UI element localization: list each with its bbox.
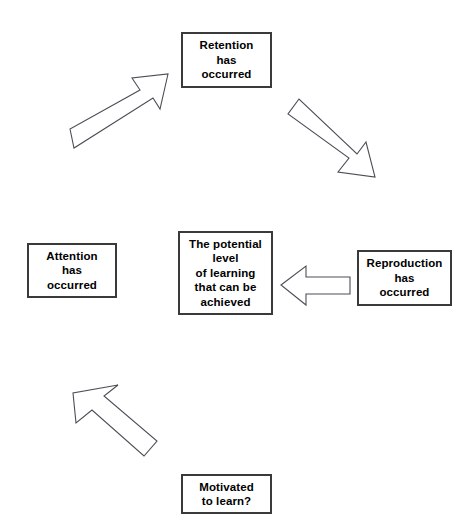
node-retention-line-3: occurred — [201, 67, 251, 82]
node-reproduction-line-3: occurred — [379, 285, 429, 300]
node-attention-line-2: has — [62, 263, 82, 278]
node-attention-has-occurred: Attention has occurred — [27, 243, 117, 298]
arrow-attention-to-retention — [70, 74, 168, 148]
arrow-motivated-to-attention — [73, 385, 157, 456]
node-motivated-to-learn: Motivated to learn? — [181, 474, 272, 514]
node-potential-level-of-learning: The potential level of learning that can… — [178, 231, 273, 315]
node-motivated-line-2: to learn? — [202, 494, 251, 509]
node-attention-line-3: occurred — [47, 278, 97, 293]
node-potential-line-5: achieved — [200, 295, 250, 310]
diagram-canvas: Retention has occurred The potential lev… — [0, 0, 474, 529]
arrow-reproduction-to-potential — [281, 266, 350, 305]
node-reproduction-has-occurred: Reproduction has occurred — [357, 250, 452, 306]
node-retention-line-2: has — [216, 53, 236, 68]
node-potential-line-2: level — [212, 251, 238, 266]
node-attention-line-1: Attention — [46, 249, 97, 264]
node-potential-line-3: of learning — [196, 266, 256, 281]
node-motivated-line-1: Motivated — [199, 480, 254, 495]
node-potential-line-1: The potential — [189, 237, 262, 252]
node-potential-line-4: that can be — [195, 280, 257, 295]
node-retention-line-1: Retention — [200, 38, 254, 53]
arrow-retention-to-reproduction — [288, 99, 375, 177]
node-reproduction-line-1: Reproduction — [367, 256, 443, 271]
node-retention-has-occurred: Retention has occurred — [181, 32, 272, 88]
node-reproduction-line-2: has — [394, 271, 414, 286]
